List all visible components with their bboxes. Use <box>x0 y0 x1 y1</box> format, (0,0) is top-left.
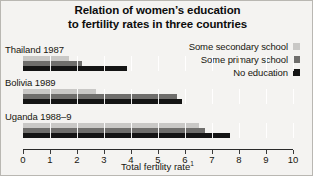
bar-group-label: Bolivia 1989 <box>5 77 56 88</box>
x-axis-title-text: Total fertility rate <box>121 161 190 172</box>
gridline <box>131 123 132 138</box>
gridline <box>77 89 78 104</box>
gridline <box>239 89 240 104</box>
gridline <box>266 56 267 71</box>
chart-figure: Relation of women’s education to fertili… <box>0 0 313 176</box>
bar-group-label: Uganda 1988–9 <box>5 111 71 122</box>
x-axis-title: Total fertility rate1 <box>1 161 313 172</box>
gridline <box>104 123 105 138</box>
gridline <box>77 123 78 138</box>
gridline <box>293 123 294 138</box>
gridline <box>266 89 267 104</box>
gridline <box>239 56 240 71</box>
gridline <box>158 89 159 104</box>
gridline <box>50 123 51 138</box>
gridline <box>293 89 294 104</box>
gridline <box>50 56 51 71</box>
bar-group-label: Thailand 1987 <box>5 44 64 55</box>
bar <box>23 133 230 138</box>
gridline <box>185 56 186 71</box>
gridline <box>77 56 78 71</box>
gridline <box>131 89 132 104</box>
gridline <box>239 123 240 138</box>
gridline <box>185 89 186 104</box>
bar <box>23 66 127 71</box>
gridline <box>212 56 213 71</box>
gridline <box>212 123 213 138</box>
gridline <box>266 123 267 138</box>
gridline <box>104 56 105 71</box>
x-axis-footnote-marker: 1 <box>190 160 194 167</box>
gridline <box>131 56 132 71</box>
gridline <box>158 56 159 71</box>
gridline <box>50 89 51 104</box>
plot-area: Thailand 1987Bolivia 1989Uganda 1988–901… <box>1 1 313 176</box>
gridline <box>158 123 159 138</box>
gridline <box>212 89 213 104</box>
gridline <box>185 123 186 138</box>
gridline <box>293 56 294 71</box>
gridline <box>104 89 105 104</box>
